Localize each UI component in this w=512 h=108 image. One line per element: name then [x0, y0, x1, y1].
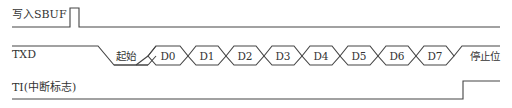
signal-label-ti: TI(中断标志)	[12, 82, 76, 94]
txd-segment-d1: D1	[199, 50, 214, 62]
txd-segment-d2: D2	[237, 50, 252, 62]
txd-segment-d4: D4	[313, 50, 328, 62]
sbuf-write-waveform	[12, 8, 500, 27]
txd-segment-d0: D0	[160, 50, 175, 62]
txd-segment-stop: 停止位	[470, 50, 500, 62]
ti-waveform	[12, 81, 500, 99]
txd-segment-d5: D5	[351, 50, 366, 62]
signal-label-sbuf: 写入SBUF	[12, 9, 67, 21]
txd-segment-d3: D3	[275, 50, 290, 62]
signal-label-txd: TXD	[12, 49, 36, 61]
txd-segment-d6: D6	[389, 50, 404, 62]
txd-segment-start: 起始	[116, 50, 136, 62]
txd-segment-d7: D7	[427, 50, 442, 62]
